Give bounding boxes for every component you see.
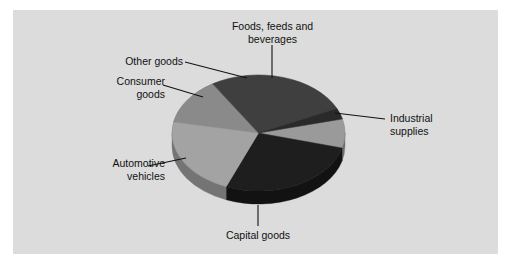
- pie-slices-group: [172, 75, 345, 204]
- leader-line-industrial-supplies: [335, 113, 385, 119]
- pie-label-industrial-supplies: Industrial supplies: [390, 112, 495, 137]
- pie-label-foods-feeds-beverages: Foods, feeds and beverages: [205, 20, 340, 45]
- chart-page: Foods, feeds and beverages Other goods C…: [0, 0, 511, 266]
- pie-label-capital-goods: Capital goods: [198, 229, 318, 242]
- pie-label-other-goods: Other goods: [68, 55, 183, 68]
- leader-line-other-goods: [185, 62, 247, 78]
- pie-label-consumer-goods: Consumer goods: [55, 75, 165, 100]
- pie-label-automotive-vehicles: Automotive vehicles: [40, 157, 165, 182]
- leader-line-consumer-goods: [163, 85, 203, 97]
